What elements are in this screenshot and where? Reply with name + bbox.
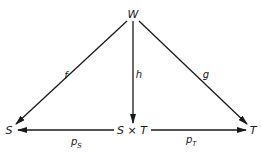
node-s-times-t: S × T <box>117 124 148 137</box>
label-p-t-main: p <box>185 134 192 145</box>
node-t: T <box>250 124 258 137</box>
label-p-s-subscript: S <box>77 142 82 150</box>
node-s: S <box>6 124 13 137</box>
arrow-f <box>16 21 127 124</box>
label-g: g <box>203 69 209 80</box>
label-p-t-subscript: T <box>192 140 197 148</box>
label-p-s-main: p <box>70 136 77 147</box>
commutative-diagram: W S S × T T f h g pS pT <box>0 0 261 152</box>
label-p-t: pT <box>185 134 197 148</box>
node-w: W <box>128 8 140 21</box>
label-h: h <box>136 69 142 80</box>
label-p-s: pS <box>70 136 82 150</box>
arrow-g <box>139 21 247 124</box>
